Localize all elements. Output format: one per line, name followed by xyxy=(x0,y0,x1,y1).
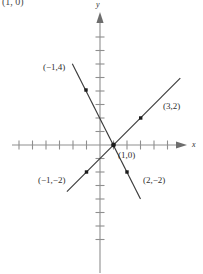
point-label-2-neg2: (2,−2) xyxy=(143,176,165,185)
point-label-neg1-4: (−1,4) xyxy=(43,63,65,72)
marker-neg1-neg2 xyxy=(85,170,88,173)
coordinate-plane-figure: (1, 0) (−1,4) (3,2) (1,0) (−1,−2) (2,−2)… xyxy=(0,0,203,274)
point-label-1-0: (1,0) xyxy=(118,151,135,160)
marker-2-neg2 xyxy=(125,170,128,173)
point-label-3-2: (3,2) xyxy=(163,102,180,111)
marker-3-2 xyxy=(139,116,142,119)
point-markers xyxy=(84,88,142,173)
graph-canvas xyxy=(0,0,203,274)
corner-note-label: (1, 0) xyxy=(2,0,24,7)
marker-intersection-1-0 xyxy=(111,143,116,148)
marker-neg1-4 xyxy=(84,88,87,91)
y-axis-label: y xyxy=(96,1,100,9)
line-slope-negative-two xyxy=(72,64,140,199)
y-axis-arrowhead xyxy=(96,12,103,23)
x-axis-arrowhead xyxy=(176,141,187,148)
x-axis-label: x xyxy=(192,141,196,149)
point-label-neg1-neg2: (−1,−2) xyxy=(38,176,65,185)
